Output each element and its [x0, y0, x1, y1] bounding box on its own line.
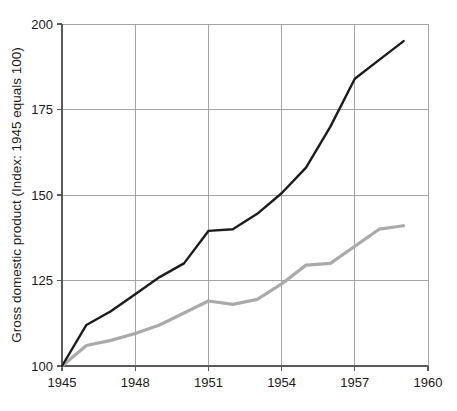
chart-background [0, 0, 457, 411]
x-axis-tick-label: 1960 [414, 375, 443, 390]
y-axis-tick-label: 125 [31, 273, 53, 288]
line-chart: 100125150175200 194519481951195419571960… [0, 0, 457, 411]
x-axis-tick-label: 1954 [267, 375, 296, 390]
x-axis-tick-label: 1948 [121, 375, 150, 390]
chart-container: 100125150175200 194519481951195419571960… [0, 0, 457, 411]
y-axis-tick-label: 200 [31, 17, 53, 32]
y-axis-title: Gross domestic product (Index: 1945 equa… [9, 47, 24, 343]
x-axis-tick-label: 1957 [340, 375, 369, 390]
y-axis-tick-label: 175 [31, 102, 53, 117]
x-axis-tick-label: 1951 [194, 375, 223, 390]
y-axis-tick-label: 100 [31, 359, 53, 374]
x-axis-tick-label: 1945 [48, 375, 77, 390]
y-axis-tick-label: 150 [31, 188, 53, 203]
